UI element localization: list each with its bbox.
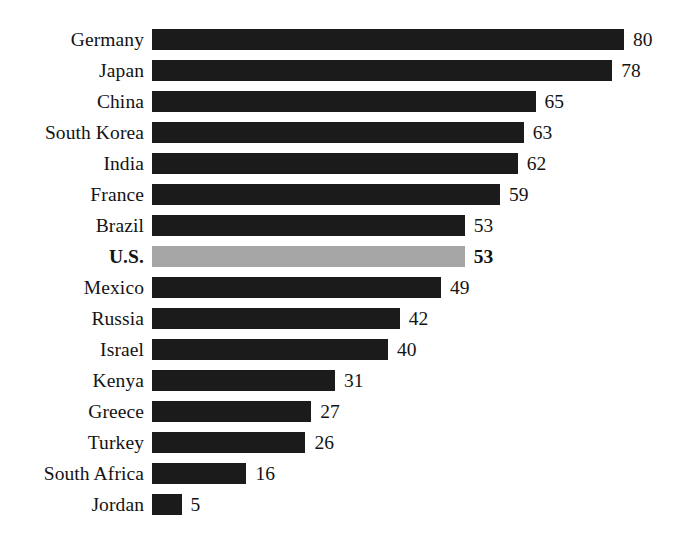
bar-track: 49 (152, 277, 686, 298)
bar (152, 494, 182, 515)
bar (152, 463, 246, 484)
bar-track: 78 (152, 60, 686, 81)
bar-value-label: 49 (450, 277, 470, 298)
category-label: Israel (0, 339, 144, 360)
bar-track: 53 (152, 215, 686, 236)
bar-track: 27 (152, 401, 686, 422)
bar-row: Turkey26 (0, 427, 686, 458)
bar-row: Japan78 (0, 55, 686, 86)
category-label: Kenya (0, 370, 144, 391)
category-label: Brazil (0, 215, 144, 236)
bar (152, 432, 305, 453)
bar (152, 401, 311, 422)
bar-row: Germany80 (0, 24, 686, 55)
bar (152, 184, 500, 205)
bar-value-label: 31 (344, 370, 364, 391)
chart-title (0, 0, 686, 4)
bar-row: Kenya31 (0, 365, 686, 396)
bar-row: India62 (0, 148, 686, 179)
bar-row: China65 (0, 86, 686, 117)
bar-highlighted (152, 246, 465, 267)
bar (152, 122, 524, 143)
bar-rows-container: Germany80Japan78China65South Korea63Indi… (0, 24, 686, 520)
category-label: France (0, 184, 144, 205)
bar (152, 91, 536, 112)
bar-value-label: 5 (191, 494, 201, 515)
bar-track: 59 (152, 184, 686, 205)
bar-row: Jordan5 (0, 489, 686, 520)
bar (152, 29, 624, 50)
bar-value-label: 53 (474, 246, 494, 267)
category-label: Japan (0, 60, 144, 81)
bar-track: 5 (152, 494, 686, 515)
bar-row: Mexico49 (0, 272, 686, 303)
bar-value-label: 40 (397, 339, 417, 360)
bar-track: 62 (152, 153, 686, 174)
category-label: Greece (0, 401, 144, 422)
category-label: Turkey (0, 432, 144, 453)
bar-value-label: 26 (314, 432, 334, 453)
bar-track: 26 (152, 432, 686, 453)
category-label: Jordan (0, 494, 144, 515)
bar-row: South Korea63 (0, 117, 686, 148)
bar-row: Israel40 (0, 334, 686, 365)
bar (152, 153, 518, 174)
category-label: Germany (0, 29, 144, 50)
bar-value-label: 16 (255, 463, 275, 484)
category-label: Russia (0, 308, 144, 329)
category-label: India (0, 153, 144, 174)
bar-track: 42 (152, 308, 686, 329)
bar-row: Brazil53 (0, 210, 686, 241)
category-label: South Africa (0, 463, 144, 484)
bar-track: 53 (152, 246, 686, 267)
bar-track: 40 (152, 339, 686, 360)
bar (152, 277, 441, 298)
bar-row: Russia42 (0, 303, 686, 334)
bar-value-label: 65 (545, 91, 565, 112)
bar-track: 16 (152, 463, 686, 484)
bar-track: 63 (152, 122, 686, 143)
bar-row: U.S.53 (0, 241, 686, 272)
category-label: South Korea (0, 122, 144, 143)
bar (152, 60, 612, 81)
horizontal-bar-chart: Germany80Japan78China65South Korea63Indi… (0, 0, 686, 533)
bar-value-label: 53 (474, 215, 494, 236)
bar (152, 370, 335, 391)
bar (152, 308, 400, 329)
bar (152, 215, 465, 236)
bar-value-label: 63 (533, 122, 553, 143)
bar-track: 31 (152, 370, 686, 391)
bar-value-label: 42 (409, 308, 429, 329)
bar (152, 339, 388, 360)
bar-row: Greece27 (0, 396, 686, 427)
bar-value-label: 27 (320, 401, 340, 422)
category-label: China (0, 91, 144, 112)
bar-value-label: 62 (527, 153, 547, 174)
bar-value-label: 78 (621, 60, 641, 81)
bar-row: South Africa16 (0, 458, 686, 489)
bar-track: 65 (152, 91, 686, 112)
category-label: Mexico (0, 277, 144, 298)
bar-value-label: 80 (633, 29, 653, 50)
bar-row: France59 (0, 179, 686, 210)
bar-track: 80 (152, 29, 686, 50)
bar-value-label: 59 (509, 184, 529, 205)
category-label: U.S. (0, 246, 144, 267)
